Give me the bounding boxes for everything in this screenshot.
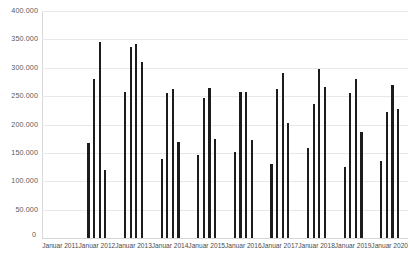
gridline [42, 210, 408, 211]
bar [161, 159, 163, 238]
gridline [42, 153, 408, 154]
bar [360, 132, 362, 238]
bar [130, 47, 132, 238]
bar [135, 44, 137, 238]
gridline [42, 125, 408, 126]
bar [313, 104, 315, 238]
bar [239, 92, 241, 238]
gridline [42, 181, 408, 182]
y-axis-tick-label: 400.000 [11, 7, 38, 14]
bar [208, 88, 210, 238]
bar [141, 62, 143, 238]
y-axis-tick-label: 300.000 [11, 64, 38, 71]
x-axis-tick-label: Januar 2020 [371, 243, 408, 250]
y-axis-zero-label: 0 [22, 231, 36, 238]
x-axis-tick-label: Januar 2012 [79, 243, 116, 250]
bar-chart: 50.000100.000150.000200.000250.000300.00… [0, 0, 410, 261]
bar [124, 92, 126, 238]
gridline [42, 68, 408, 69]
bar [318, 69, 320, 238]
x-axis-tick-label: Januar 2011 [42, 243, 78, 250]
bar [282, 73, 284, 238]
bar [104, 170, 106, 238]
bar [197, 155, 199, 238]
x-axis-tick-label: Januar 2013 [115, 243, 152, 250]
x-axis-tick-labels: Januar 2011Januar 2012Januar 2013Januar … [42, 238, 408, 261]
bar [172, 89, 174, 238]
bar [380, 161, 382, 238]
bar [251, 140, 253, 238]
bar [177, 142, 179, 238]
bar [234, 152, 236, 238]
bar [391, 85, 393, 238]
bar [245, 92, 247, 238]
bar [276, 89, 278, 238]
bar [93, 79, 95, 238]
y-axis-tick-label: 50.000 [15, 206, 38, 213]
bar [270, 164, 272, 238]
x-axis-tick-label: Januar 2017 [262, 243, 299, 250]
y-axis-tick-labels: 50.000100.000150.000200.000250.000300.00… [0, 11, 38, 238]
bar [214, 139, 216, 238]
gridline [42, 96, 408, 97]
plot-area [42, 11, 408, 238]
bar [307, 148, 309, 238]
gridline [42, 39, 408, 40]
bar [355, 79, 357, 238]
y-axis-tick-label: 150.000 [11, 149, 38, 156]
x-axis-tick-label: Januar 2016 [225, 243, 262, 250]
bar [324, 87, 326, 238]
x-axis-tick-label: Januar 2018 [298, 243, 335, 250]
x-axis-tick-label: Januar 2014 [152, 243, 189, 250]
gridline [42, 11, 408, 12]
y-axis-tick-label: 250.000 [11, 93, 38, 100]
bar [87, 143, 89, 238]
bar [203, 98, 205, 238]
x-axis-tick-label: Januar 2015 [188, 243, 225, 250]
y-axis-tick-label: 350.000 [11, 36, 38, 43]
bar [349, 93, 351, 238]
bar [287, 123, 289, 238]
bar [99, 42, 101, 238]
bar [344, 167, 346, 239]
x-axis-tick-label: Januar 2019 [335, 243, 372, 250]
bar [386, 112, 388, 238]
y-axis-tick-label: 200.000 [11, 121, 38, 128]
y-axis-tick-label: 100.000 [11, 178, 38, 185]
bar [166, 93, 168, 238]
bar [397, 109, 399, 238]
